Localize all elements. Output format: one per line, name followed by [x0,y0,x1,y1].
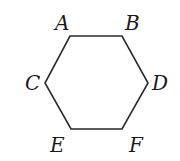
vertex-label-d: D [151,71,168,95]
vertex-label-a: A [53,11,69,35]
vertex-label-e: E [49,133,65,157]
vertex-label-b: B [124,11,140,35]
hexagon-shape [45,36,148,129]
hexagon-diagram: A B D F E C [0,0,180,161]
vertex-label-c: C [25,71,40,95]
vertex-label-f: F [128,133,144,157]
